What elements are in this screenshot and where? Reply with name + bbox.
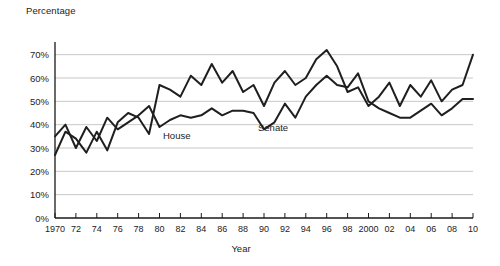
y-tick-label: 60%	[30, 73, 50, 84]
x-tick-label: 1970	[45, 224, 65, 234]
x-tick-label: 96	[322, 224, 332, 234]
x-tick-marks-group	[55, 213, 473, 218]
x-tick-label: 92	[280, 224, 290, 234]
x-tick-label: 86	[217, 224, 227, 234]
x-tick-label: 94	[301, 224, 311, 234]
series-line-senate	[55, 50, 473, 155]
x-tick-labels-group: 1970727476788082848688909294969820000204…	[45, 224, 478, 234]
x-tick-label: 74	[92, 224, 102, 234]
x-tick-label: 2000	[358, 224, 378, 234]
series-label-senate: Senate	[258, 122, 288, 133]
x-tick-label: 72	[71, 224, 81, 234]
x-tick-label: 84	[196, 224, 206, 234]
chart-svg: 0%10%20%30%40%50%60%70% 1970727476788082…	[0, 0, 500, 266]
data-series-group	[55, 50, 473, 155]
y-tick-label: 30%	[30, 143, 50, 154]
y-tick-label: 10%	[30, 189, 50, 200]
x-tick-label: 88	[238, 224, 248, 234]
x-tick-label: 02	[384, 224, 394, 234]
y-tick-label: 50%	[30, 96, 50, 107]
x-axis-title: Year	[0, 243, 500, 254]
x-tick-label: 10	[468, 224, 478, 234]
x-tick-label: 04	[405, 224, 415, 234]
y-tick-label: 0%	[35, 213, 49, 224]
y-tick-labels-group: 0%10%20%30%40%50%60%70%	[30, 49, 50, 223]
y-tick-label: 40%	[30, 119, 50, 130]
x-tick-label: 80	[154, 224, 164, 234]
y-tick-label: 70%	[30, 49, 50, 60]
series-label-house: House	[163, 130, 190, 141]
x-tick-label: 78	[134, 224, 144, 234]
x-axis-title-text: Year	[231, 243, 250, 254]
x-tick-label: 90	[259, 224, 269, 234]
x-tick-label: 08	[447, 224, 457, 234]
x-tick-label: 06	[426, 224, 436, 234]
y-tick-label: 20%	[30, 166, 50, 177]
x-tick-label: 82	[175, 224, 185, 234]
x-tick-label: 98	[343, 224, 353, 234]
chart-container: Percentage 0%10%20%30%40%50%60%70% 19707…	[0, 0, 500, 266]
x-tick-label: 76	[113, 224, 123, 234]
